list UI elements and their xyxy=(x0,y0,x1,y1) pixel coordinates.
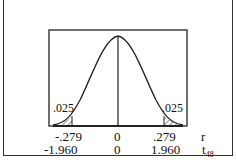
t-tick-left: -1.960 xyxy=(44,143,78,156)
t-tick-right: 1.960 xyxy=(151,143,180,156)
right-tail-label: .025 xyxy=(162,102,183,115)
left-tail-label: .025 xyxy=(53,102,74,115)
t-axis-subscript: 48 xyxy=(206,150,214,159)
t-axis-label: t48 xyxy=(202,143,214,160)
t-tick-center: 0 xyxy=(114,143,121,156)
